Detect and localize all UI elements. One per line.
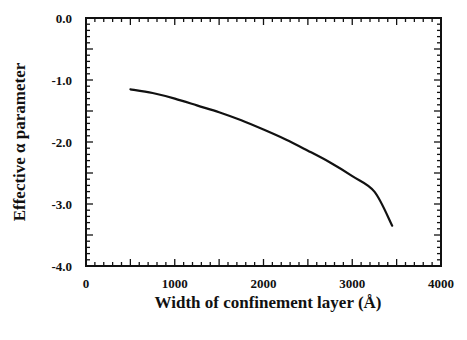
data-curve — [130, 89, 392, 225]
y-tick-label: 0.0 — [56, 11, 72, 26]
x-tick-label: 1000 — [162, 276, 188, 291]
plot-frame — [86, 18, 441, 266]
y-tick-label: -4.0 — [51, 259, 72, 274]
x-tick-label: 0 — [83, 276, 90, 291]
axis-ticks — [86, 18, 441, 266]
y-tick-label: -2.0 — [51, 135, 72, 150]
y-tick-label: -1.0 — [51, 73, 72, 88]
y-tick-label: -3.0 — [51, 197, 72, 212]
x-tick-label: 4000 — [428, 276, 454, 291]
y-axis-tick-labels: 0.0-1.0-2.0-3.0-4.0 — [51, 11, 72, 274]
x-tick-label: 2000 — [251, 276, 277, 291]
x-axis-tick-labels: 01000200030004000 — [83, 276, 454, 291]
chart: 01000200030004000 0.0-1.0-2.0-3.0-4.0 Wi… — [0, 0, 467, 340]
x-tick-label: 3000 — [339, 276, 365, 291]
y-axis-title: Effective α parameter — [10, 62, 29, 221]
x-axis-title: Width of confinement layer (Å) — [155, 293, 382, 312]
